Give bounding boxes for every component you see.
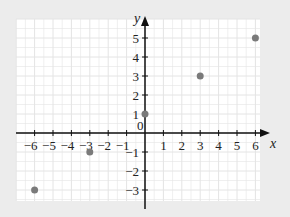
svg-text:−2: −2 — [125, 164, 139, 179]
svg-text:5: 5 — [133, 31, 140, 46]
svg-text:−6: −6 — [24, 138, 38, 153]
data-point — [197, 73, 204, 80]
svg-text:−1: −1 — [125, 145, 139, 160]
data-point — [252, 35, 259, 42]
svg-text:−4: −4 — [60, 138, 74, 153]
svg-text:−2: −2 — [97, 138, 111, 153]
svg-text:3: 3 — [197, 138, 204, 153]
svg-text:2: 2 — [179, 138, 186, 153]
svg-text:3: 3 — [133, 69, 140, 84]
svg-text:−5: −5 — [42, 138, 56, 153]
svg-text:−3: −3 — [125, 183, 139, 198]
svg-text:6: 6 — [252, 138, 259, 153]
svg-text:2: 2 — [133, 88, 140, 103]
data-point — [86, 149, 93, 156]
scatter-chart: −6−5−4−3−2−1123456−3−2−112345 x y 0 — [0, 0, 290, 217]
origin-label: 0 — [137, 118, 144, 133]
svg-text:5: 5 — [234, 138, 241, 153]
x-axis-label: x — [269, 136, 277, 151]
data-point — [142, 111, 149, 118]
svg-text:4: 4 — [133, 50, 140, 65]
data-point — [31, 187, 38, 194]
svg-text:4: 4 — [215, 138, 222, 153]
y-axis-label: y — [132, 11, 141, 26]
svg-text:1: 1 — [160, 138, 167, 153]
